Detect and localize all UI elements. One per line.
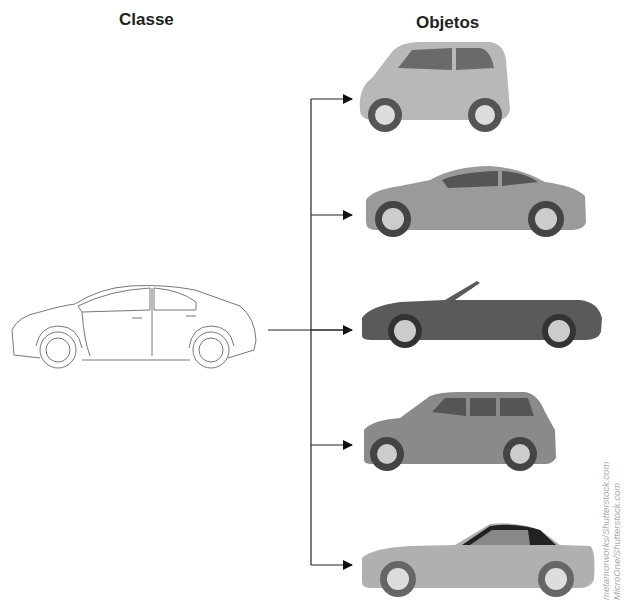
object-coupe [366, 166, 586, 237]
object-compact-car [360, 42, 510, 132]
object-convertible [362, 281, 602, 348]
credit-line-2: MicroOne/Shutterstock.com [611, 462, 622, 600]
object-roadster [362, 523, 595, 597]
class-sedan-outline [12, 286, 256, 369]
image-credits: metamorworks/Shutterstock.com MicroOne/S… [600, 462, 622, 600]
connectors [268, 99, 352, 565]
credit-line-1: metamorworks/Shutterstock.com [600, 462, 611, 600]
object-suv [364, 392, 556, 471]
diagram-canvas [0, 0, 636, 611]
